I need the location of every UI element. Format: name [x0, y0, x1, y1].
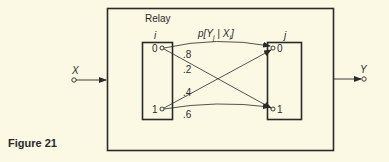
prob-0-to-0: .8 — [183, 50, 191, 60]
input-x-label: X — [72, 66, 79, 76]
prob-1-to-1: .6 — [183, 110, 191, 120]
right-node-0-label: 0 — [277, 44, 283, 54]
right-node-1 — [271, 107, 275, 111]
input-x-connector — [72, 78, 106, 82]
channel-probability-label: p[Yj | Xi] — [198, 29, 234, 41]
right-node-1-label: 1 — [277, 105, 283, 115]
transition-arrows — [164, 41, 271, 109]
left-node-1 — [160, 107, 164, 111]
prob-1-to-0: .4 — [183, 88, 191, 98]
left-node-0-label: 0 — [152, 44, 158, 54]
right-index-label: j — [284, 31, 286, 41]
left-index-label: i — [154, 31, 156, 41]
arrow-0-to-0 — [164, 41, 270, 48]
figure-caption: Figure 21 — [8, 138, 57, 149]
relay-channel-diagram — [0, 0, 389, 162]
left-node-0 — [160, 46, 164, 50]
relay-label: Relay — [145, 14, 171, 24]
output-y-connector — [334, 77, 366, 81]
output-y-label: Y — [360, 65, 367, 75]
right-node-0 — [271, 46, 275, 50]
arrow-1-to-1 — [164, 104, 270, 109]
left-node-1-label: 1 — [152, 105, 158, 115]
prob-0-to-1: .2 — [183, 65, 191, 75]
